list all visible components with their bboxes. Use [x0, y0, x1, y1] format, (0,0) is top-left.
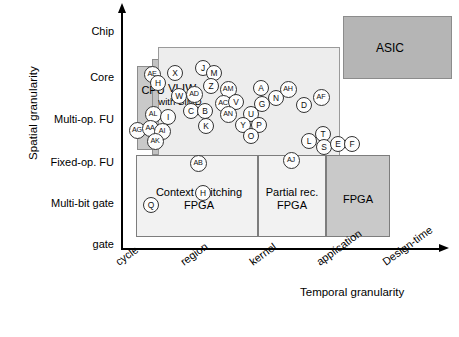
fpga-label: FPGA	[330, 193, 386, 206]
y-tick-gate: gate	[0, 238, 114, 252]
data-point-ah[interactable]: AH	[280, 81, 297, 98]
x-tick-kernel: kernel	[247, 240, 278, 267]
x-axis-arrow-icon	[439, 244, 449, 252]
diagram-canvas: CPUVLIWwith SIMDASICContext switching FP…	[0, 0, 459, 337]
data-point-aj[interactable]: AJ	[283, 152, 300, 169]
data-point-f[interactable]: F	[344, 136, 360, 152]
x-axis-title: Temporal granularity	[300, 286, 404, 298]
y-tick-label: Multi-op. FU	[0, 113, 114, 125]
data-point-z[interactable]: Z	[203, 78, 219, 94]
data-point-h[interactable]: H	[195, 185, 211, 201]
data-point-l[interactable]: L	[301, 133, 317, 149]
data-point-ad[interactable]: AD	[186, 86, 203, 103]
data-point-d[interactable]: D	[296, 97, 312, 113]
data-point-x[interactable]: X	[167, 65, 183, 81]
data-point-af[interactable]: AF	[313, 89, 330, 106]
data-point-ak[interactable]: AK	[147, 133, 164, 150]
y-tick-label: Fixed-op. FU	[0, 156, 114, 168]
data-point-w[interactable]: W	[171, 88, 187, 104]
asic-label: ASIC	[360, 41, 420, 55]
y-tick-multi-bit-gate: Multi-bit gate	[0, 197, 114, 211]
data-point-ab[interactable]: AB	[190, 155, 207, 172]
x-tick-region: region	[178, 240, 210, 268]
data-point-q[interactable]: Q	[143, 197, 159, 213]
data-point-an[interactable]: AN	[220, 106, 237, 123]
data-point-b[interactable]: B	[197, 103, 213, 119]
y-axis-title: Spatial granularity	[27, 33, 39, 193]
y-axis-line	[121, 10, 123, 248]
y-tick-chip: Chip	[0, 25, 114, 39]
y-tick-label: Chip	[0, 25, 114, 37]
data-point-o[interactable]: O	[243, 128, 259, 144]
y-tick-label: gate	[0, 238, 114, 250]
data-point-h[interactable]: H	[150, 75, 166, 91]
data-point-k[interactable]: K	[198, 118, 214, 134]
y-axis-arrow-icon	[118, 3, 126, 13]
y-tick-label: Multi-bit gate	[0, 197, 114, 209]
y-tick-label: Core	[0, 71, 114, 83]
y-tick-multi-op-fu: Multi-op. FU	[0, 113, 114, 127]
y-tick-core: Core	[0, 71, 114, 85]
data-point-a[interactable]: A	[253, 80, 269, 96]
partial-rec-fpga-label: Partial rec. FPGA	[261, 186, 323, 212]
x-tick-cycle: cycle	[113, 243, 140, 267]
y-tick-fixed-op-fu: Fixed-op. FU	[0, 156, 114, 170]
